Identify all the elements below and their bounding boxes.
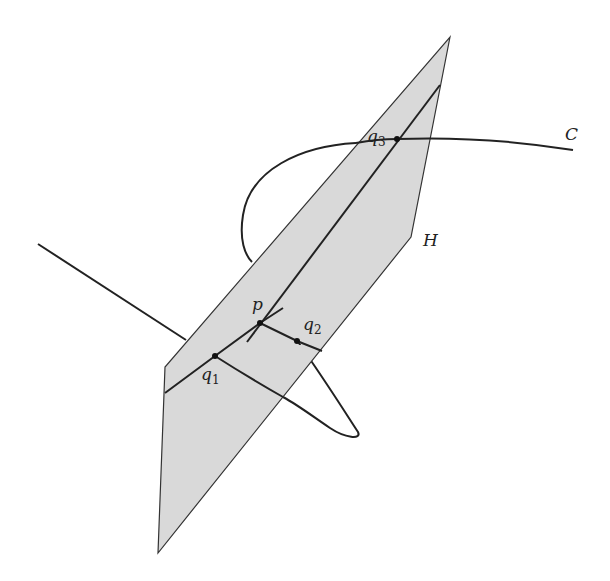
label-p: p [252,296,263,313]
label-H: H [423,232,438,249]
label-q2: q2 [303,316,322,333]
diagram-svg [0,0,610,581]
plane-H [158,37,450,553]
label-q2-sub: 2 [314,323,322,337]
label-C: C [565,126,578,143]
label-q1-base: q [201,364,212,384]
label-q3-sub: 3 [378,135,386,149]
label-q2-base: q [303,314,314,334]
label-q3: q3 [367,128,386,145]
curve-C-left-segment [38,244,186,340]
point-q3 [394,136,400,142]
label-q1-sub: 1 [212,373,220,387]
label-q1: q1 [201,366,220,383]
point-q2 [294,338,300,344]
point-p [257,320,263,326]
label-q3-base: q [367,126,378,146]
diagram-canvas: C H p q3 q2 q1 [0,0,610,581]
point-q1 [212,353,218,359]
